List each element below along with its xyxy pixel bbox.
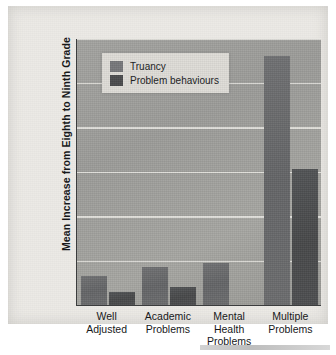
bar-truancy-academic-problems xyxy=(142,267,168,305)
chart-legend: Truancy Problem behaviours xyxy=(102,53,229,93)
x-label-line: Problems xyxy=(137,323,198,336)
scanned-page-panel: Mean Increase from Eighth to Ninth Grade… xyxy=(8,6,328,324)
bar-problem-behaviours-well-adjusted xyxy=(109,292,135,305)
legend-item-truancy: Truancy xyxy=(110,59,219,73)
legend-label-problem-behaviours: Problem behaviours xyxy=(130,75,219,86)
x-label-academic-problems: AcademicProblems xyxy=(137,310,198,335)
x-label-line: Multiple xyxy=(260,310,321,323)
legend-swatch-problem-behaviours xyxy=(110,75,123,86)
figure-bar-chart: Mean Increase from Eighth to Ninth Grade… xyxy=(0,0,336,355)
legend-item-problem-behaviours: Problem behaviours xyxy=(110,73,219,87)
bar-truancy-mental-health-problems xyxy=(203,263,229,305)
y-axis-title: Mean Increase from Eighth to Ninth Grade xyxy=(60,19,72,269)
legend-label-truancy: Truancy xyxy=(130,61,166,72)
x-label-well-adjusted: WellAdjusted xyxy=(76,310,137,335)
bar-truancy-well-adjusted xyxy=(81,276,107,305)
x-label-line: Adjusted xyxy=(76,323,137,336)
legend-swatch-truancy xyxy=(110,61,123,72)
x-label-mental-health-problems: Mental HealthProblems xyxy=(199,310,260,348)
footer-decoration-strip xyxy=(200,345,330,350)
bar-problem-behaviours-academic-problems xyxy=(170,287,196,305)
x-label-multiple-problems: MultipleProblems xyxy=(260,310,321,335)
x-label-line: Mental Health xyxy=(199,310,260,335)
bar-truancy-multiple-problems xyxy=(264,56,290,305)
x-label-line: Problems xyxy=(260,323,321,336)
x-label-line: Academic xyxy=(137,310,198,323)
plot-area: Truancy Problem behaviours xyxy=(76,39,321,306)
bar-problem-behaviours-multiple-problems xyxy=(292,169,318,305)
x-label-line: Well xyxy=(76,310,137,323)
gridline xyxy=(77,38,321,39)
